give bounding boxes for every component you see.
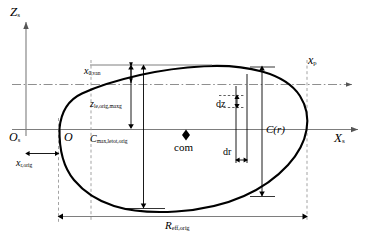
label-x0van: x0,van <box>84 66 101 76</box>
diagram-vector-layer <box>0 0 373 247</box>
label-cmax-letot-orig: Cmax,letot,orig <box>90 134 128 144</box>
dimension-zle <box>128 65 134 130</box>
axis-lines <box>12 22 358 136</box>
label-dr: dr <box>223 147 231 157</box>
center-of-mass-marker <box>182 130 190 141</box>
label-com: com <box>174 142 193 153</box>
dimension-cmax <box>122 65 165 209</box>
origin-label-os: Os <box>9 131 20 144</box>
label-dz: dz <box>216 99 225 109</box>
dimension-reff <box>58 214 308 220</box>
axis-label-zs: Zs <box>10 5 20 19</box>
label-cr: C(r) <box>266 124 285 135</box>
label-zle-orig-maxg: zle,orig,maxg <box>90 99 122 109</box>
diagram-canvas: Zs Xs xp Os O x0,van zle,orig,maxg Cmax,… <box>0 0 373 247</box>
axis-label-xs: Xs <box>334 131 345 145</box>
label-reff-orig: Reff,orig <box>165 220 190 231</box>
label-xr-orig: xr,orig <box>16 158 32 168</box>
origin-label-o: O <box>64 131 73 143</box>
axis-label-xp: xp <box>308 54 317 67</box>
dimension-xrorig <box>25 151 59 156</box>
